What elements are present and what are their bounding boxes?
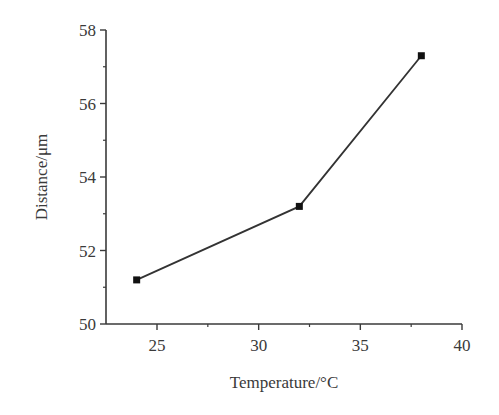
y-tick-label: 54 (79, 168, 97, 187)
data-point-marker (296, 203, 303, 210)
x-tick-label: 35 (352, 336, 369, 355)
x-axis-label: Temperature/°C (230, 373, 339, 392)
y-tick-label: 50 (79, 315, 96, 334)
plot-area (133, 52, 425, 283)
y-axis: 5052545658 (79, 21, 106, 334)
data-point-marker (133, 276, 140, 283)
x-tick-label: 40 (454, 336, 471, 355)
x-tick-label: 30 (250, 336, 267, 355)
y-tick-label: 52 (79, 242, 96, 261)
x-axis: 25303540 (106, 324, 471, 355)
data-point-marker (418, 52, 425, 59)
y-tick-label: 58 (79, 21, 96, 40)
y-tick-label: 56 (79, 95, 96, 114)
x-tick-label: 25 (149, 336, 166, 355)
y-axis-label: Distance/μm (32, 134, 51, 221)
series-line (137, 56, 422, 280)
line-chart: 5052545658 25303540 Temperature/°C Dista… (0, 0, 499, 415)
